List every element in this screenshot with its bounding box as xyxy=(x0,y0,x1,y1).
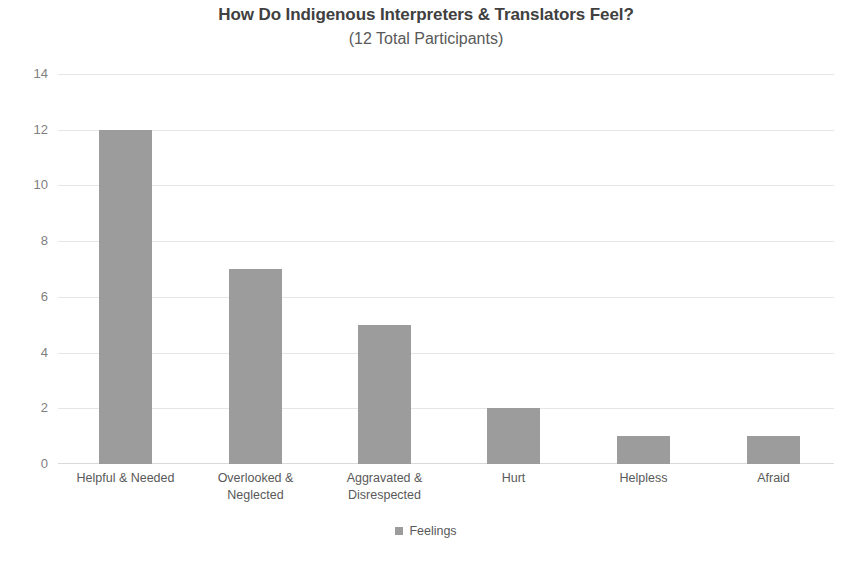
y-axis: 14 12 10 8 6 4 2 0 xyxy=(0,74,48,464)
y-tick-label: 10 xyxy=(0,178,48,192)
chart-legend: Feelings xyxy=(0,524,852,538)
y-tick-label: 6 xyxy=(0,290,48,304)
bar[interactable] xyxy=(617,436,670,464)
y-tick-label: 4 xyxy=(0,346,48,360)
x-tick-label: Aggravated & Disrespected xyxy=(321,470,448,504)
plot-area xyxy=(58,74,834,464)
x-tick-label: Overlooked & Neglected xyxy=(192,470,319,504)
legend-item-label[interactable]: Feelings xyxy=(409,524,456,538)
bar[interactable] xyxy=(229,269,282,464)
bar[interactable] xyxy=(747,436,800,464)
x-tick-label: Afraid xyxy=(710,470,837,487)
y-tick-label: 0 xyxy=(0,457,48,471)
bar[interactable] xyxy=(99,130,152,464)
bars-layer xyxy=(58,74,834,464)
chart-subtitle: (12 Total Participants) xyxy=(0,28,852,50)
bar-chart: How Do Indigenous Interpreters & Transla… xyxy=(0,0,852,565)
x-tick-label: Helpless xyxy=(580,470,707,487)
y-tick-label: 8 xyxy=(0,234,48,248)
y-tick-label: 2 xyxy=(0,401,48,415)
page-title: How Do Indigenous Interpreters & Transla… xyxy=(0,4,852,26)
y-tick-label: 12 xyxy=(0,123,48,137)
y-tick-label: 14 xyxy=(0,67,48,81)
chart-title-block: How Do Indigenous Interpreters & Transla… xyxy=(0,4,852,50)
x-tick-label: Helpful & Needed xyxy=(62,470,189,487)
bar[interactable] xyxy=(358,325,411,464)
x-axis: Helpful & Needed Overlooked & Neglected … xyxy=(58,470,834,518)
bar[interactable] xyxy=(487,408,540,464)
x-tick-label: Hurt xyxy=(450,470,577,487)
legend-marker-icon xyxy=(395,527,403,535)
